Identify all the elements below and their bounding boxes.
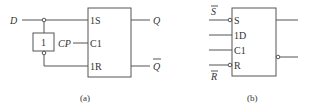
label-c1: C1	[90, 38, 102, 49]
diagram-b	[209, 6, 298, 76]
label-qbar: Q	[153, 61, 161, 72]
label-s: S	[234, 15, 240, 26]
label-q: Q	[153, 15, 161, 26]
inverter-bubble	[42, 51, 46, 55]
junction-top	[42, 18, 46, 22]
label-1r: 1R	[90, 61, 102, 72]
label-1s: 1S	[90, 15, 101, 26]
label-d: D	[9, 15, 18, 26]
label-1d: 1D	[234, 30, 246, 41]
label-c1-b: C1	[234, 45, 246, 56]
label-r: R	[234, 60, 241, 71]
label-cp: CP	[58, 38, 71, 49]
label-rbar: R	[210, 71, 217, 82]
r-bubble	[228, 63, 232, 67]
label-inverter: 1	[41, 37, 46, 48]
caption-a: (a)	[80, 93, 90, 103]
out-bubble	[276, 55, 280, 59]
caption-b: (b)	[247, 93, 258, 103]
s-bubble	[228, 18, 232, 22]
flip-flop-diagrams: D 1 CP 1S C1 1R Q Q (a) S S 1D C1 R R (b…	[0, 0, 313, 108]
wire-inverter-to-1r	[44, 55, 88, 66]
label-sbar: S	[211, 6, 216, 17]
